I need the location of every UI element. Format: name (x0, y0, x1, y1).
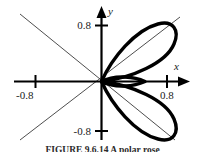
y-tick-label-negative: -0.8 (74, 125, 92, 137)
x-tick-label-positive: 0.8 (160, 89, 174, 101)
polar-rose-figure: -0.8 0.8 0.8 -0.8 x y FIGURE 9.6.14 A po… (0, 0, 205, 152)
y-axis-label: y (107, 5, 113, 17)
figure-caption: FIGURE 9.6.14 A polar rose (0, 145, 205, 152)
polar-plot-svg: -0.8 0.8 0.8 -0.8 x y (0, 0, 205, 152)
x-tick-label-negative: -0.8 (16, 89, 34, 101)
x-axis-label: x (173, 60, 179, 72)
y-tick-label-positive: 0.8 (77, 19, 91, 31)
